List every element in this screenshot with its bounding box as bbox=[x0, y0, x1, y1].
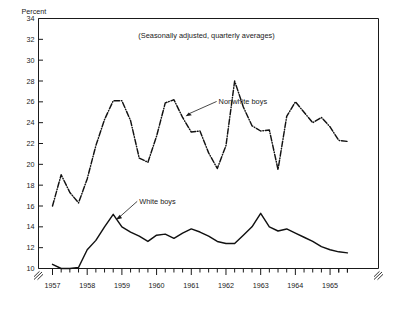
x-tick-label: 1959 bbox=[114, 281, 130, 290]
x-tick-label: 1960 bbox=[149, 281, 165, 290]
white-boys-label: White boys bbox=[139, 197, 176, 206]
nonwhite-boys-label: Nonwhite boys bbox=[219, 97, 268, 106]
x-tick-label: 1964 bbox=[287, 281, 303, 290]
series-line-white-boys bbox=[53, 213, 348, 268]
y-tick-label: 12 bbox=[27, 243, 35, 252]
x-tick-label: 1958 bbox=[79, 281, 95, 290]
axis-break-icon bbox=[34, 271, 43, 279]
y-tick-label: 10 bbox=[27, 264, 35, 273]
x-tick-label: 1963 bbox=[253, 281, 269, 290]
series-line-nonwhite-boys bbox=[53, 81, 348, 206]
axis-break-icon bbox=[374, 271, 383, 279]
y-tick-label: 26 bbox=[27, 97, 35, 106]
y-tick-label: 24 bbox=[27, 118, 35, 127]
chart-canvas: 1012141618202224262830323419571958195919… bbox=[0, 0, 396, 312]
x-tick-label: 1962 bbox=[218, 281, 234, 290]
y-tick-label: 28 bbox=[27, 77, 35, 86]
x-tick-label: 1965 bbox=[322, 281, 338, 290]
y-axis-title: Percent bbox=[22, 7, 47, 16]
chart-subtitle: (Seasonally adjusted, quarterly averages… bbox=[138, 31, 274, 40]
chart-figure: 1012141618202224262830323419571958195919… bbox=[0, 0, 396, 312]
y-tick-label: 22 bbox=[27, 139, 35, 148]
y-tick-label: 32 bbox=[27, 35, 35, 44]
y-tick-label: 16 bbox=[27, 202, 35, 211]
x-tick-label: 1961 bbox=[183, 281, 199, 290]
y-tick-label: 20 bbox=[27, 160, 35, 169]
y-tick-label: 18 bbox=[27, 181, 35, 190]
x-tick-label: 1957 bbox=[45, 281, 61, 290]
plot-frame bbox=[39, 19, 379, 269]
y-tick-label: 14 bbox=[27, 222, 35, 231]
y-tick-label: 30 bbox=[27, 56, 35, 65]
nonwhite-annotation-leader bbox=[190, 101, 217, 113]
white-annotation-leader bbox=[119, 201, 137, 217]
